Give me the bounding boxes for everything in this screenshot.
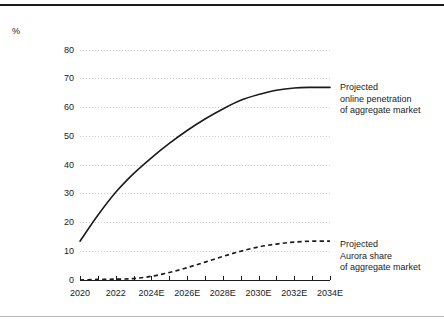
legend-aurora-share: ProjectedAurora shareof aggregate market — [340, 239, 421, 274]
legend-aurora-share-line-2: of aggregate market — [340, 262, 421, 274]
series-line-0 — [80, 87, 330, 241]
y-tick-label-60: 60 — [50, 103, 74, 112]
y-tick-label-30: 30 — [50, 189, 74, 198]
y-tick-label-80: 80 — [50, 46, 74, 55]
legend-online-penetration-line-1: online penetration — [340, 94, 421, 106]
legend-online-penetration-line-0: Projected — [340, 82, 421, 94]
y-tick-label-10: 10 — [50, 247, 74, 256]
series-line-1 — [80, 241, 330, 280]
y-tick-label-40: 40 — [50, 161, 74, 170]
x-tick-label-2034E: 2034E — [307, 288, 353, 298]
y-tick-label-70: 70 — [50, 74, 74, 83]
legend-online-penetration: Projectedonline penetrationof aggregate … — [340, 82, 421, 117]
chart-page: % 01020304050607080 202020222024E2026E20… — [0, 0, 444, 322]
y-tick-label-50: 50 — [50, 132, 74, 141]
legend-aurora-share-line-1: Aurora share — [340, 251, 421, 263]
y-tick-label-20: 20 — [50, 218, 74, 227]
legend-aurora-share-line-0: Projected — [340, 239, 421, 251]
legend-online-penetration-line-2: of aggregate market — [340, 105, 421, 117]
y-tick-label-0: 0 — [50, 276, 74, 285]
